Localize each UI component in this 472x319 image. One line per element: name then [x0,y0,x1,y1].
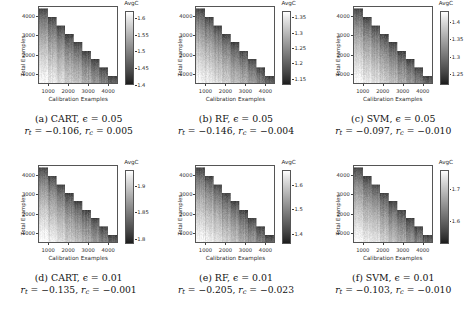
colorbar-tick-label: 1.85 [137,209,149,215]
colorbar-tick-mark [292,63,294,64]
figure-panel-grid: Total Examples10002000300040001000200030… [0,0,472,319]
plot-area-f: Total Examples10002000300040001000200030… [315,159,472,271]
colorbar-ticks: 1.61.51.4 [292,170,314,244]
x-axis-label: Calibration Examples [38,255,118,261]
x-tick-label: 3000 [396,247,409,253]
panel-row-bottom: Total Examples10002000300040001000200030… [0,159,472,318]
colorbar-tick-label: 1.25 [294,45,306,51]
caption-line-1: (d) CART, ϵ = 0.01 [35,272,123,283]
caption-c: (c) SVM, ϵ = 0.05rt = −0.097, rc = −0.01… [315,113,472,140]
x-tick-mark [88,243,89,245]
y-tick-label: 3000 [22,32,35,38]
colorbar-tick-label: 1.5 [137,48,145,54]
caption-e: (e) RF, ϵ = 0.01rt = −0.205, rc = −0.023 [157,272,314,299]
x-tick-mark [403,243,404,245]
x-axis-label: Calibration Examples [353,96,433,102]
colorbar-tick-label: 1.6 [452,218,460,224]
x-tick-mark [225,243,226,245]
y-tick-label: 2000 [337,211,350,217]
colorbar-title: AvgC [281,0,295,6]
panel-row-top: Total Examples10002000300040001000200030… [0,0,472,159]
heatmap-b [195,6,275,84]
x-tick-label: 1000 [356,88,369,94]
x-tick-label: 3000 [239,88,252,94]
colorbar-tick-label: 1.4 [137,82,145,88]
colorbar-tick-label: 1.3 [452,54,460,60]
x-tick-label: 3000 [239,247,252,253]
y-tick-label: 1000 [22,71,35,77]
colorbar-tick-mark [292,17,294,18]
x-tick-mark [205,243,206,245]
colorbar-tick-mark [450,22,452,23]
heatmap-canvas [39,7,117,83]
x-axis-ticks: 1000200030004000 [38,86,118,95]
heatmap-e [195,165,275,243]
colorbar-tick-label: 1.2 [294,60,302,66]
colorbar-f: AvgC1.71.6 [439,165,472,251]
x-tick-label: 4000 [102,247,115,253]
panel-b: Total Examples10002000300040001000200030… [157,0,314,159]
x-tick-mark [363,84,364,86]
x-tick-label: 1000 [356,247,369,253]
caption-d: (d) CART, ϵ = 0.01rt = −0.135, rc = −0.0… [0,272,157,299]
x-tick-label: 4000 [259,88,272,94]
colorbar-tick-mark [135,35,137,36]
caption-line-1: (a) CART, ϵ = 0.05 [35,113,123,124]
x-tick-label: 4000 [259,247,272,253]
colorbar-tick-label: 1.6 [137,15,145,21]
x-axis-ticks: 1000200030004000 [353,86,433,95]
panel-a: Total Examples10002000300040001000200030… [0,0,157,159]
colorbar-tick-mark [135,85,137,86]
x-axis-label: Calibration Examples [353,255,433,261]
heatmap-f [353,165,433,243]
panel-e: Total Examples10002000300040001000200030… [157,159,314,318]
heatmap-canvas [354,166,432,242]
colorbar-tick-label: 1.8 [137,236,145,242]
x-axis-ticks: 1000200030004000 [353,245,433,254]
colorbar-tick-mark [135,212,137,213]
y-tick-label: 1000 [179,230,192,236]
colorbar-tick-label: 1.7 [452,186,460,192]
colorbar-tick-mark [450,39,452,40]
caption-a: (a) CART, ϵ = 0.05rt = −0.106, rc = 0.00… [0,113,157,140]
y-tick-label: 4000 [179,13,192,19]
colorbar-title: AvgC [124,159,138,165]
y-tick-label: 1000 [337,230,350,236]
y-tick-label: 2000 [22,52,35,58]
caption-line-2: rt = −0.135, rc = −0.001 [0,284,157,298]
colorbar-tick-label: 1.35 [452,36,464,42]
y-axis-ticks: 1000200030004000 [327,165,351,243]
panel-c: Total Examples10002000300040001000200030… [315,0,472,159]
heatmap-canvas [39,166,117,242]
x-tick-mark [265,84,266,86]
colorbar-tick-label: 1.55 [137,32,149,38]
y-axis-ticks: 1000200030004000 [12,6,36,84]
colorbar-tick-label: 1.9 [137,183,145,189]
colorbar-tick-label: 1.4 [452,19,460,25]
y-axis-ticks: 1000200030004000 [327,6,351,84]
y-tick-label: 1000 [337,71,350,77]
heatmap-c [353,6,433,84]
y-tick-label: 3000 [337,191,350,197]
y-tick-label: 1000 [22,230,35,236]
colorbar-gradient [440,170,449,244]
caption-line-1: (f) SVM, ϵ = 0.01 [352,272,434,283]
colorbar-tick-mark [292,209,294,210]
colorbar-tick-mark [135,18,137,19]
x-tick-label: 2000 [62,88,75,94]
x-tick-label: 2000 [219,247,232,253]
colorbar-tick-label: 1.5 [294,206,302,212]
x-tick-label: 1000 [199,247,212,253]
colorbar-tick-mark [450,189,452,190]
colorbar-tick-mark [292,185,294,186]
x-tick-mark [108,84,109,86]
x-axis-label: Calibration Examples [195,255,275,261]
x-tick-mark [363,243,364,245]
colorbar-gradient [440,11,449,85]
colorbar-tick-label: 1.6 [294,182,302,188]
y-tick-label: 4000 [337,172,350,178]
x-tick-label: 4000 [416,88,429,94]
colorbar-tick-label: 1.35 [294,14,306,20]
y-tick-label: 3000 [337,32,350,38]
x-tick-label: 2000 [219,88,232,94]
